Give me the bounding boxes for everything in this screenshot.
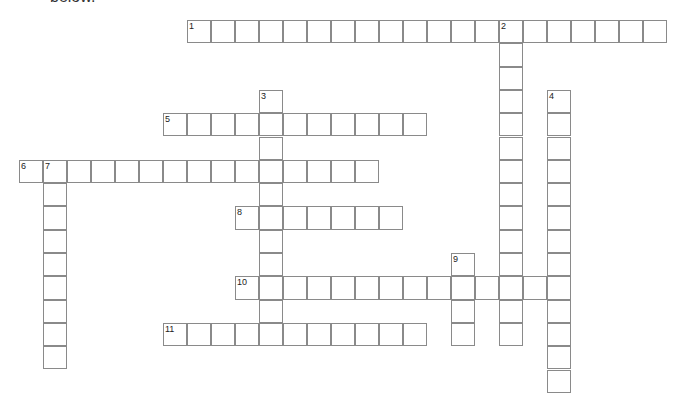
crossword-cell[interactable] [283,20,307,43]
crossword-cell[interactable] [619,20,643,43]
crossword-cell[interactable] [259,276,283,299]
crossword-cell[interactable] [43,276,67,299]
crossword-cell[interactable] [163,160,187,183]
crossword-cell[interactable]: 2 [499,20,523,43]
crossword-cell[interactable] [547,20,571,43]
crossword-cell[interactable] [499,230,523,253]
crossword-cell[interactable]: 5 [163,113,187,136]
crossword-cell[interactable] [187,160,211,183]
crossword-cell[interactable] [331,323,355,346]
crossword-cell[interactable] [187,323,211,346]
crossword-cell[interactable] [331,113,355,136]
crossword-cell[interactable] [259,253,283,276]
crossword-cell[interactable] [547,253,571,276]
crossword-cell[interactable] [307,276,331,299]
crossword-cell[interactable] [91,160,115,183]
crossword-cell[interactable] [259,160,283,183]
crossword-cell[interactable] [355,323,379,346]
crossword-cell[interactable]: 10 [235,276,259,299]
crossword-cell[interactable]: 9 [451,253,475,276]
crossword-cell[interactable] [235,160,259,183]
crossword-cell[interactable] [235,113,259,136]
crossword-cell[interactable] [43,183,67,206]
crossword-cell[interactable] [211,20,235,43]
crossword-cell[interactable]: 1 [187,20,211,43]
crossword-cell[interactable] [355,160,379,183]
crossword-cell[interactable] [547,300,571,323]
crossword-cell[interactable] [307,113,331,136]
crossword-cell[interactable] [451,276,475,299]
crossword-cell[interactable] [259,323,283,346]
crossword-cell[interactable] [499,323,523,346]
crossword-cell[interactable] [547,230,571,253]
crossword-cell[interactable] [595,20,619,43]
crossword-cell[interactable] [307,160,331,183]
crossword-cell[interactable] [499,160,523,183]
crossword-cell[interactable]: 4 [547,90,571,113]
crossword-cell[interactable] [499,183,523,206]
crossword-cell[interactable] [211,113,235,136]
crossword-cell[interactable] [547,276,571,299]
crossword-cell[interactable] [379,20,403,43]
crossword-cell[interactable] [379,206,403,229]
crossword-cell[interactable] [499,206,523,229]
crossword-cell[interactable] [235,323,259,346]
crossword-cell[interactable] [379,323,403,346]
crossword-cell[interactable] [259,183,283,206]
crossword-cell[interactable] [499,300,523,323]
crossword-cell[interactable] [259,137,283,160]
crossword-cell[interactable] [43,346,67,369]
crossword-cell[interactable] [547,206,571,229]
crossword-cell[interactable] [523,276,547,299]
crossword-cell[interactable] [403,113,427,136]
crossword-cell[interactable] [571,20,595,43]
crossword-cell[interactable] [283,113,307,136]
crossword-cell[interactable] [355,276,379,299]
crossword-cell[interactable] [331,20,355,43]
crossword-cell[interactable] [355,113,379,136]
crossword-cell[interactable] [43,300,67,323]
crossword-cell[interactable] [331,160,355,183]
crossword-cell[interactable] [307,323,331,346]
crossword-cell[interactable] [43,206,67,229]
crossword-cell[interactable] [283,160,307,183]
crossword-cell[interactable] [643,20,667,43]
crossword-cell[interactable] [379,113,403,136]
crossword-cell[interactable] [499,253,523,276]
crossword-cell[interactable] [427,276,451,299]
crossword-cell[interactable] [331,276,355,299]
crossword-cell[interactable] [307,20,331,43]
crossword-cell[interactable] [43,230,67,253]
crossword-cell[interactable] [331,206,355,229]
crossword-cell[interactable] [499,276,523,299]
crossword-cell[interactable] [355,206,379,229]
crossword-cell[interactable] [307,206,331,229]
crossword-cell[interactable]: 7 [43,160,67,183]
crossword-cell[interactable] [499,137,523,160]
crossword-cell[interactable] [403,20,427,43]
crossword-cell[interactable] [403,323,427,346]
crossword-cell[interactable] [547,323,571,346]
crossword-cell[interactable] [187,113,211,136]
crossword-cell[interactable] [283,323,307,346]
crossword-cell[interactable] [547,113,571,136]
crossword-cell[interactable] [67,160,91,183]
crossword-cell[interactable] [259,20,283,43]
crossword-cell[interactable] [499,90,523,113]
crossword-cell[interactable] [139,160,163,183]
crossword-cell[interactable] [211,323,235,346]
crossword-cell[interactable] [475,20,499,43]
crossword-cell[interactable] [547,137,571,160]
crossword-cell[interactable] [211,160,235,183]
crossword-cell[interactable] [115,160,139,183]
crossword-cell[interactable]: 3 [259,90,283,113]
crossword-cell[interactable] [259,230,283,253]
crossword-cell[interactable] [403,276,427,299]
crossword-cell[interactable] [499,113,523,136]
crossword-cell[interactable] [499,67,523,90]
crossword-cell[interactable] [451,20,475,43]
crossword-cell[interactable] [451,300,475,323]
crossword-cell[interactable] [283,206,307,229]
crossword-cell[interactable] [547,183,571,206]
crossword-cell[interactable]: 6 [19,160,43,183]
